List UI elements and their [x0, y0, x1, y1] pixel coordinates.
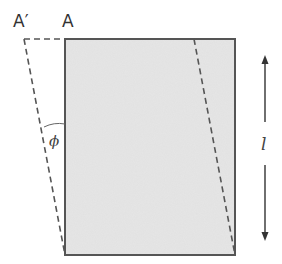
angle-arc — [44, 123, 65, 127]
block-texture — [66, 40, 234, 254]
label-a-prime: A′ — [13, 11, 29, 31]
label-a: A — [62, 11, 74, 31]
label-phi: ϕ — [49, 132, 59, 150]
label-length: l — [261, 134, 266, 154]
shear-diagram: A′ A ϕ l — [0, 0, 282, 264]
block — [65, 39, 235, 255]
arrow-down-icon — [262, 232, 269, 241]
arrow-up-icon — [262, 55, 269, 64]
